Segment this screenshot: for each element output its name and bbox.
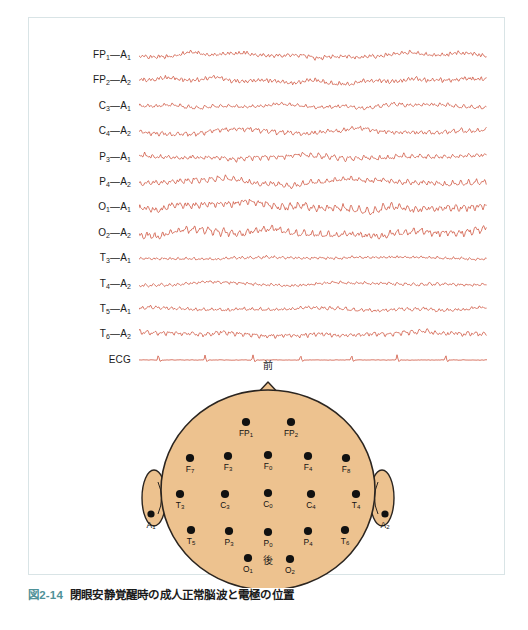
- head-back-label: 後: [29, 552, 506, 567]
- eeg-waveform: [139, 42, 487, 68]
- eeg-channel-label: FP1—A1: [29, 42, 131, 68]
- figure-caption: 図2-14閉眼安静覚醒時の成人正常脳波と電極の位置: [28, 586, 294, 602]
- eeg-channel-row: P4—A2: [29, 169, 506, 195]
- eeg-waveform: [139, 67, 487, 93]
- eeg-waveform: [139, 321, 487, 347]
- eeg-channel-row: T6—A2: [29, 321, 506, 347]
- eeg-channel-label: FP2—A2: [29, 67, 131, 93]
- eeg-channel-label: P3—A1: [29, 144, 131, 170]
- eeg-recording-panel: FP1—A1FP2—A2C3—A1C4—A2P3—A1P4—A2O1—A1O2—…: [29, 18, 506, 358]
- eeg-channel-label: T5—A1: [29, 296, 131, 322]
- eeg-channel-row: FP2—A2: [29, 67, 506, 93]
- eeg-waveform: [139, 118, 487, 144]
- eeg-channel-label: T3—A1: [29, 245, 131, 271]
- eeg-channel-row: FP1—A1: [29, 42, 506, 68]
- electrode-placement-diagram: FP1FP2F7F3F0F4F8T3C3C0C4T4T5P3P0P4T6O1O2…: [29, 356, 506, 574]
- figure-caption-text: 閉眼安静覚醒時の成人正常脳波と電極の位置: [70, 589, 294, 601]
- eeg-channel-row: T3—A1: [29, 245, 506, 271]
- eeg-waveform: [139, 93, 487, 119]
- eeg-waveform: [139, 169, 487, 195]
- figure-frame: FP1—A1FP2—A2C3—A1C4—A2P3—A1P4—A2O1—A1O2—…: [28, 17, 505, 575]
- eeg-channel-row: O1—A1: [29, 194, 506, 220]
- figure-caption-number: 図2-14: [28, 589, 63, 601]
- eeg-channel-row: T4—A2: [29, 271, 506, 297]
- eeg-waveform: [139, 296, 487, 322]
- eeg-channel-row: P3—A1: [29, 144, 506, 170]
- eeg-channel-row: C3—A1: [29, 93, 506, 119]
- eeg-channel-row: C4—A2: [29, 118, 506, 144]
- eeg-channel-row: O2—A2: [29, 220, 506, 246]
- eeg-waveform: [139, 194, 487, 220]
- eeg-channel-row: T5—A1: [29, 296, 506, 322]
- eeg-waveform: [139, 220, 487, 246]
- eeg-channel-label: O2—A2: [29, 220, 131, 246]
- eeg-waveform: [139, 144, 487, 170]
- eeg-channel-label: C4—A2: [29, 118, 131, 144]
- figure-page: FP1—A1FP2—A2C3—A1C4—A2P3—A1P4—A2O1—A1O2—…: [0, 0, 528, 630]
- eeg-waveform: [139, 245, 487, 271]
- eeg-channel-label: T4—A2: [29, 271, 131, 297]
- eeg-channel-label: T6—A2: [29, 321, 131, 347]
- head-front-label: 前: [29, 357, 506, 372]
- eeg-channel-label: O1—A1: [29, 194, 131, 220]
- eeg-waveform: [139, 271, 487, 297]
- eeg-channel-label: P4—A2: [29, 169, 131, 195]
- eeg-channel-label: C3—A1: [29, 93, 131, 119]
